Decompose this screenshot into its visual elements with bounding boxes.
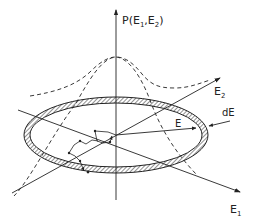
e2-axis-label: E2: [214, 85, 225, 100]
radius-label: E: [175, 118, 181, 129]
shell-width-de-arrow: [209, 121, 230, 126]
e1-axis-label: E1: [230, 203, 241, 218]
probability-shell-diagram: P(E1,E2) E2 E1 E dE: [0, 0, 253, 219]
gaussian-curve-e2: [30, 57, 210, 96]
p-axis-label: P(E1,E2): [122, 14, 164, 29]
shell-width-label: dE: [222, 107, 235, 118]
